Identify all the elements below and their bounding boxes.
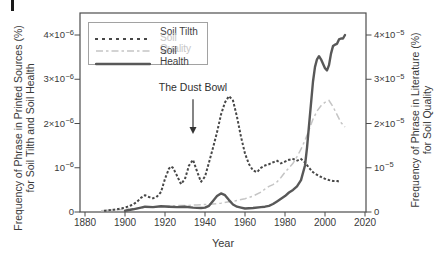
left-y-axis-label-line2: for Soil Tilth and Soil Health (24, 8, 36, 248)
x-axis-tick-label: 1960 (225, 217, 265, 228)
solid-line-sample-icon (95, 53, 151, 59)
x-axis-tick-label: 2020 (345, 217, 385, 228)
x-axis-tick-label: 2000 (305, 217, 345, 228)
x-axis-tick-label: 1980 (265, 217, 305, 228)
right-y-axis-label-line2: for Soil Quality (421, 0, 433, 240)
right-y-axis-label-line1: Frequency of Phrase in Literature (%) (409, 0, 421, 240)
x-axis-tick-label: 1900 (105, 217, 145, 228)
dust-bowl-annotation: The Dust Bowl (145, 81, 241, 93)
right-y-axis-label: Frequency of Phrase in Literature (%) fo… (409, 0, 433, 240)
left-y-axis-label: Frequency of Phrase in Printed Sources (… (12, 8, 36, 248)
legend-item-soil-health: Soil Health (95, 50, 207, 62)
legend-sample-line (95, 61, 151, 67)
legend-label-soil-health: Soil Health (160, 45, 207, 67)
x-axis-tick-label: 1920 (145, 217, 185, 228)
figure-soil-phrase-frequency-chart: 4×10−63×10−62×10−610−604×10−53×10−52×10−… (0, 0, 448, 261)
x-axis-title: Year (193, 237, 253, 249)
chart-legend: Soil Tilth Soil Quality Soil Health (88, 22, 208, 65)
dashdot-line-sample-icon (95, 40, 151, 46)
x-axis-tick-label: 1880 (65, 217, 105, 228)
x-axis-tick-label: 1940 (185, 217, 225, 228)
dust-bowl-arrow-head (190, 127, 197, 134)
left-y-axis-label-line1: Frequency of Phrase in Printed Sources (… (12, 8, 24, 248)
dotted-line-sample-icon (95, 28, 151, 34)
